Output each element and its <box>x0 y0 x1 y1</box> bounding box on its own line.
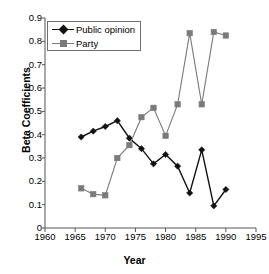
chart-container: 00.10.20.30.40.50.60.70.80.9 19601965197… <box>0 0 269 274</box>
legend-swatch-party <box>52 38 74 49</box>
data-point-square <box>163 133 168 138</box>
data-point-square <box>211 29 216 34</box>
diamond-marker-icon <box>59 25 69 35</box>
data-point-square <box>223 33 228 38</box>
data-point-diamond <box>102 123 108 129</box>
legend-item-public-opinion: Public opinion <box>52 23 135 36</box>
data-point-square <box>139 114 144 119</box>
data-point-square <box>127 142 132 147</box>
data-point-square <box>175 102 180 107</box>
x-axis-title: Year <box>0 254 269 266</box>
x-axis-tick-label: 1995 <box>236 232 269 242</box>
chart-legend: Public opinion Party <box>47 21 141 51</box>
data-point-square <box>103 193 108 198</box>
data-point-diamond <box>78 134 84 140</box>
data-point-square <box>151 105 156 110</box>
square-marker-icon <box>60 40 67 47</box>
data-point-square <box>187 30 192 35</box>
data-point-diamond <box>199 147 205 153</box>
legend-label-party: Party <box>74 38 98 49</box>
y-axis-tick-label: 0.1 <box>16 200 42 210</box>
data-point-square <box>199 102 204 107</box>
data-point-square <box>78 186 83 191</box>
legend-swatch-public-opinion <box>52 24 74 35</box>
data-point-diamond <box>90 128 96 134</box>
legend-item-party: Party <box>52 37 98 50</box>
data-point-diamond <box>187 190 193 196</box>
y-axis-tick-label: 0.9 <box>16 13 42 23</box>
series-line <box>81 32 226 195</box>
data-point-square <box>115 155 120 160</box>
legend-label-public-opinion: Public opinion <box>74 24 135 35</box>
y-axis-title: Beta Coefficients <box>20 40 32 180</box>
data-point-square <box>91 191 96 196</box>
